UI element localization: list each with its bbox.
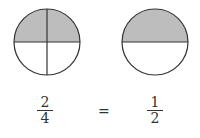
fraction-right: 1 2 [145, 96, 165, 125]
equals-sign: = [98, 103, 110, 119]
circle-one-half [122, 9, 188, 75]
denominator: 4 [35, 112, 55, 125]
numerator: 1 [145, 96, 165, 109]
denominator: 2 [145, 112, 165, 125]
fraction-left: 2 4 [35, 96, 55, 125]
numerator: 2 [35, 96, 55, 109]
circle-two-quarters [14, 9, 80, 75]
shaded-top-half [122, 9, 188, 42]
